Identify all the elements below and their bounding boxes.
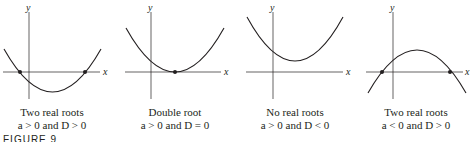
panel-3-title: No real roots xyxy=(235,106,355,119)
panel-3-y-label: y xyxy=(269,2,275,13)
panel-4-x-label: x xyxy=(464,66,470,77)
panel-3-parabola xyxy=(247,17,343,61)
figure-label: FIGURE 9 xyxy=(3,134,57,142)
panel-1-x-label: x xyxy=(102,66,108,77)
panel-3-x-label: x xyxy=(345,66,351,77)
panel-3-caption: No real roots a > 0 and D < 0 xyxy=(235,106,355,132)
panel-4-y-label: y xyxy=(389,2,395,13)
panel-4-root-dot-right xyxy=(448,70,452,74)
panel-1-title: Two real roots xyxy=(0,106,112,119)
panel-4-root-dot-left xyxy=(380,70,384,74)
panel-1-caption: Two real roots a > 0 and D > 0 xyxy=(0,106,112,132)
panel-2-y-label: y xyxy=(147,2,153,13)
panel-2-graph xyxy=(125,12,224,99)
panel-2-condition: a > 0 and D = 0 xyxy=(115,119,235,132)
panel-2-x-label: x xyxy=(223,66,229,77)
panel-1-root-dot-right xyxy=(83,70,87,74)
panel-2-parabola xyxy=(126,28,224,72)
panel-2-caption: Double root a > 0 and D = 0 xyxy=(115,106,235,132)
panel-1-condition: a > 0 and D > 0 xyxy=(0,119,112,132)
panel-1-root-dot-left xyxy=(18,70,22,74)
panel-3-condition: a > 0 and D < 0 xyxy=(235,119,355,132)
panel-4-graph xyxy=(366,12,466,99)
panel-3-graph xyxy=(246,12,343,99)
panel-2-double-root-dot xyxy=(173,70,177,74)
panel-2-title: Double root xyxy=(115,106,235,119)
panel-4-caption: Two real roots a < 0 and D > 0 xyxy=(356,106,471,132)
panel-1-graph xyxy=(3,12,101,99)
panel-1-parabola xyxy=(4,49,101,92)
panel-4-condition: a < 0 and D > 0 xyxy=(356,119,471,132)
panel-1-y-label: y xyxy=(25,2,31,13)
panel-4-title: Two real roots xyxy=(356,106,471,119)
